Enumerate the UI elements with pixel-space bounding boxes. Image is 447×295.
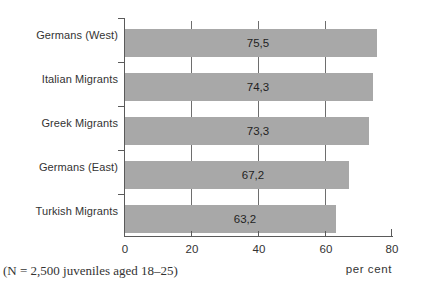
bar-value-germans-east: 67,2 xyxy=(233,161,273,189)
x-tick-label-80: 80 xyxy=(377,243,407,255)
x-axis-tick-60 xyxy=(325,231,326,237)
category-label-turkish-migrants: Turkish Migrants xyxy=(0,205,118,217)
footnote-sample-size: (N = 2,500 juveniles aged 18–25) xyxy=(3,263,178,279)
y-axis-tick xyxy=(118,106,124,107)
category-label-germans-west: Germans (West) xyxy=(0,29,118,41)
y-axis-tick xyxy=(118,62,124,63)
plot-area: 75,5 74,3 73,3 67,2 63,2 xyxy=(125,21,392,234)
y-axis-line xyxy=(124,18,125,237)
y-axis-tick xyxy=(118,150,124,151)
x-tick-label-20: 20 xyxy=(177,243,207,255)
y-axis-top-cap xyxy=(118,18,125,19)
x-axis-tick-0 xyxy=(124,231,125,237)
x-axis-tick-40 xyxy=(258,231,259,237)
axis-unit-label: per cent xyxy=(322,263,392,275)
category-label-greek-migrants: Greek Migrants xyxy=(0,117,118,129)
bar-value-germans-west: 75,5 xyxy=(238,29,278,57)
x-tick-label-40: 40 xyxy=(244,243,274,255)
bar-chart-figure: Germans (West) Italian Migrants Greek Mi… xyxy=(0,0,447,295)
x-tick-label-0: 0 xyxy=(110,243,140,255)
bar-value-turkish-migrants: 63,2 xyxy=(225,205,265,233)
x-axis-tick-20 xyxy=(191,231,192,237)
x-tick-label-60: 60 xyxy=(311,243,341,255)
category-label-germans-east: Germans (East) xyxy=(0,161,118,173)
y-axis-tick xyxy=(118,194,124,195)
category-axis: Germans (West) Italian Migrants Greek Mi… xyxy=(0,0,118,230)
x-axis-end-cap xyxy=(391,229,392,237)
bar-value-italian-migrants: 74,3 xyxy=(238,73,278,101)
bar-value-greek-migrants: 73,3 xyxy=(238,117,278,145)
category-label-italian-migrants: Italian Migrants xyxy=(0,73,118,85)
